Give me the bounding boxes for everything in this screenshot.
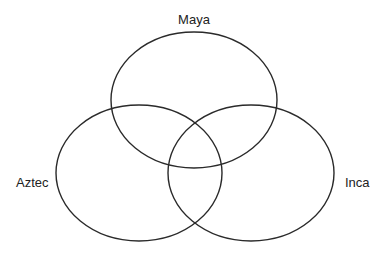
inca-set-ellipse [168,105,334,241]
venn-diagram: Maya Aztec Inca [0,0,390,253]
aztec-label: Aztec [16,175,49,190]
maya-set-ellipse [111,32,277,168]
aztec-set-ellipse [56,105,222,241]
venn-canvas: Maya Aztec Inca [0,0,390,253]
inca-label: Inca [345,175,370,190]
maya-label: Maya [178,12,211,27]
